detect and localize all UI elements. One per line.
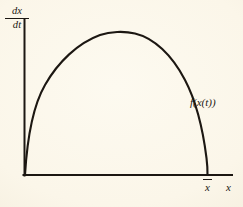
growth-curve [25, 32, 208, 175]
overbar [203, 179, 212, 180]
curve-label: f(x(t)) [190, 97, 216, 108]
x-bar-symbol: x [201, 182, 214, 193]
figure-container: dx dt f(x(t)) x x [0, 0, 243, 207]
y-axis-label-numerator: dx [5, 6, 29, 17]
y-axis-label: dx dt [5, 6, 29, 31]
y-axis-label-denominator: dt [5, 20, 29, 31]
x-axis-label: x [226, 182, 231, 193]
x-bar-tick-label: x [201, 179, 214, 193]
